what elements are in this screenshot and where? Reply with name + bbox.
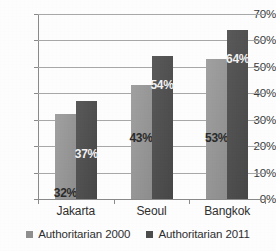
x-axis-tick-mark bbox=[114, 199, 115, 204]
chart-legend: Authoritarian 2000Authoritarian 2011 bbox=[0, 228, 276, 240]
bar-value-label: 64% bbox=[223, 52, 252, 66]
legend-label: Authoritarian 2011 bbox=[158, 228, 249, 240]
x-axis-tick-mark bbox=[189, 199, 190, 204]
bar-value-label: 37% bbox=[72, 147, 101, 161]
x-axis-tick-mark bbox=[265, 199, 266, 204]
legend-label: Authoritarian 2000 bbox=[38, 228, 130, 240]
legend-item: Authoritarian 2000 bbox=[26, 228, 130, 240]
bar-chart: 0%10%20%30%40%50%60%70% 32%37%43%54%53%6… bbox=[0, 0, 276, 251]
plot-area: 32%37%43%54%53%64% bbox=[38, 14, 265, 199]
square-marker-dark-icon bbox=[146, 231, 153, 238]
x-axis-category-label: Bangkok bbox=[204, 204, 250, 218]
x-axis-tick-mark bbox=[38, 199, 39, 204]
bar-value-label: 54% bbox=[148, 78, 177, 92]
x-axis-category-label: Jakarta bbox=[57, 204, 96, 218]
square-marker-light-icon bbox=[26, 231, 33, 238]
gridline bbox=[38, 14, 265, 15]
bar bbox=[206, 59, 227, 199]
x-axis-category-label: Seoul bbox=[136, 204, 166, 218]
legend-item: Authoritarian 2011 bbox=[146, 228, 249, 240]
